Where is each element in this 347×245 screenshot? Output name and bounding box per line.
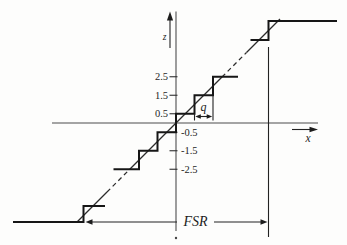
ideal-line-solid-lower (77, 192, 108, 223)
y-tick-label: -1.5 (181, 145, 198, 156)
q-arrowhead-left-icon (195, 114, 201, 118)
y-tick-label: 2.5 (155, 71, 168, 82)
axis-bottom-dot (175, 237, 177, 239)
x-axis-arrowhead-icon (310, 127, 319, 133)
fsr-label: FSR (182, 214, 208, 229)
y-tick-label: 1.5 (155, 90, 168, 101)
ideal-transfer-line (77, 19, 281, 223)
fsr-arrowhead-right-icon (261, 219, 268, 224)
y-tick-label: 0.5 (155, 108, 168, 119)
q-step-annotation: q (195, 95, 214, 120)
y-axis-label: z (162, 32, 167, 42)
fsr-arrowhead-left-icon (86, 219, 93, 224)
staircase-upper-saturation (251, 21, 338, 40)
y-tick-label: -2.5 (181, 164, 198, 175)
q-label: q (201, 100, 207, 114)
quantizer-staircase (13, 21, 337, 222)
y-axis-direction: z (162, 12, 173, 49)
ideal-line-dashed-lower (107, 169, 130, 192)
ideal-line-dashed-upper (222, 53, 247, 78)
y-tick-label: -0.5 (181, 127, 198, 138)
q-arrowhead-right-icon (207, 114, 213, 118)
ideal-line-solid-upper (247, 19, 281, 53)
x-axis-label: x (304, 132, 311, 144)
y-axis-arrowhead-icon (167, 12, 173, 21)
quantizer-transfer-function-figure: 2.5 1.5 0.5 -0.5 -1.5 -2.5 z x q (0, 0, 347, 245)
figure-canvas: 2.5 1.5 0.5 -0.5 -1.5 -2.5 z x q (0, 0, 347, 245)
fsr-annotation: FSR (86, 47, 269, 237)
x-axis-direction: x (292, 127, 318, 144)
